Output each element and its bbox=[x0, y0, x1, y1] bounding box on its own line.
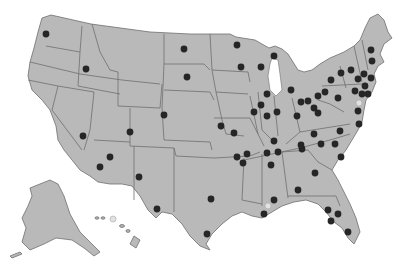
location-marker[interactable] bbox=[271, 197, 278, 204]
location-marker[interactable] bbox=[83, 66, 90, 73]
location-marker[interactable] bbox=[238, 64, 245, 71]
hawaii bbox=[95, 217, 140, 248]
alaska bbox=[22, 180, 100, 256]
location-marker[interactable] bbox=[355, 76, 362, 83]
location-marker[interactable] bbox=[208, 196, 215, 203]
location-marker[interactable] bbox=[318, 141, 325, 148]
highlighted-location-marker[interactable] bbox=[356, 100, 362, 106]
location-marker[interactable] bbox=[355, 108, 362, 115]
location-marker[interactable] bbox=[136, 174, 143, 181]
location-marker[interactable] bbox=[271, 138, 278, 145]
location-marker[interactable] bbox=[328, 77, 335, 84]
location-marker[interactable] bbox=[368, 75, 375, 82]
location-marker[interactable] bbox=[264, 150, 271, 157]
location-marker[interactable] bbox=[338, 70, 345, 77]
location-marker[interactable] bbox=[275, 149, 282, 156]
location-marker[interactable] bbox=[311, 131, 318, 138]
location-marker[interactable] bbox=[352, 88, 359, 95]
location-marker[interactable] bbox=[268, 162, 275, 169]
location-marker[interactable] bbox=[154, 206, 161, 213]
location-marker[interactable] bbox=[368, 47, 375, 54]
location-marker[interactable] bbox=[43, 31, 50, 38]
location-marker[interactable] bbox=[361, 71, 368, 78]
location-marker[interactable] bbox=[315, 93, 322, 100]
location-marker[interactable] bbox=[231, 130, 238, 137]
location-marker[interactable] bbox=[295, 187, 302, 194]
location-marker[interactable] bbox=[97, 164, 104, 171]
location-marker[interactable] bbox=[332, 141, 339, 148]
location-marker[interactable] bbox=[184, 74, 191, 81]
location-marker[interactable] bbox=[234, 154, 241, 161]
location-marker[interactable] bbox=[328, 218, 335, 225]
location-marker[interactable] bbox=[274, 109, 281, 116]
location-marker[interactable] bbox=[348, 67, 355, 74]
location-marker[interactable] bbox=[244, 151, 251, 158]
location-marker[interactable] bbox=[264, 91, 271, 98]
location-marker[interactable] bbox=[365, 91, 372, 98]
location-marker[interactable] bbox=[271, 53, 278, 60]
location-marker[interactable] bbox=[80, 133, 87, 140]
location-marker[interactable] bbox=[234, 42, 241, 49]
location-marker[interactable] bbox=[338, 154, 345, 161]
location-marker[interactable] bbox=[251, 109, 258, 116]
location-marker[interactable] bbox=[264, 113, 271, 120]
location-marker[interactable] bbox=[362, 83, 369, 90]
location-marker[interactable] bbox=[312, 170, 319, 177]
location-marker[interactable] bbox=[335, 95, 342, 102]
location-marker[interactable] bbox=[345, 229, 352, 236]
location-marker[interactable] bbox=[218, 123, 225, 130]
us-map bbox=[0, 0, 408, 267]
location-marker[interactable] bbox=[127, 129, 134, 136]
location-marker[interactable] bbox=[315, 110, 322, 117]
location-marker[interactable] bbox=[294, 113, 301, 120]
location-marker[interactable] bbox=[204, 231, 211, 238]
location-marker[interactable] bbox=[161, 112, 168, 119]
location-marker[interactable] bbox=[261, 211, 268, 218]
location-marker[interactable] bbox=[369, 58, 376, 65]
highlighted-location-marker[interactable] bbox=[265, 203, 271, 209]
location-marker[interactable] bbox=[258, 102, 265, 109]
location-marker[interactable] bbox=[240, 160, 247, 167]
location-marker[interactable] bbox=[322, 89, 329, 96]
location-marker[interactable] bbox=[325, 207, 332, 214]
location-marker[interactable] bbox=[298, 99, 305, 106]
location-marker[interactable] bbox=[181, 46, 188, 53]
location-marker[interactable] bbox=[288, 87, 295, 94]
highlighted-location-marker[interactable] bbox=[110, 216, 116, 222]
location-marker[interactable] bbox=[258, 64, 265, 71]
location-marker[interactable] bbox=[337, 128, 344, 135]
location-marker[interactable] bbox=[305, 98, 312, 105]
location-marker[interactable] bbox=[298, 142, 305, 149]
location-marker[interactable] bbox=[107, 154, 114, 161]
location-marker[interactable] bbox=[356, 121, 363, 128]
location-marker[interactable] bbox=[335, 211, 342, 218]
alaska-aleutians bbox=[10, 252, 22, 258]
location-marker[interactable] bbox=[359, 91, 366, 98]
